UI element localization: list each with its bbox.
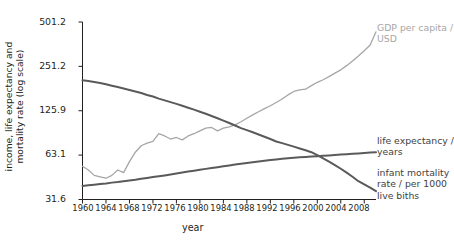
series-label-infant-mortality: infant mortality rate / per 1000 live bi…	[377, 167, 449, 201]
series-label-inf-line1: infant mortality	[377, 167, 449, 178]
series-path	[83, 32, 377, 178]
series-label-gdp: GDP per capita / USD	[377, 22, 453, 45]
series-line-life-expectancy	[83, 152, 377, 186]
y-axis-ticks	[79, 22, 83, 200]
axis-lines	[83, 22, 377, 200]
series-line-infant-mortality	[83, 80, 377, 191]
series-line-gdp	[83, 32, 377, 178]
series-label-gdp-line2: USD	[377, 33, 453, 44]
series-label-life-line2: years	[377, 146, 454, 157]
series-label-life-expectancy: life expectancy / years	[377, 135, 454, 158]
series-path	[83, 152, 377, 186]
series-label-life-line1: life expectancy /	[377, 135, 454, 146]
x-axis-ticks	[83, 200, 365, 204]
series-label-gdp-line1: GDP per capita /	[377, 22, 453, 33]
series-label-inf-line2: rate / per 1000	[377, 178, 449, 189]
series-label-inf-line3: live biths	[377, 190, 449, 201]
series-path	[83, 80, 377, 191]
